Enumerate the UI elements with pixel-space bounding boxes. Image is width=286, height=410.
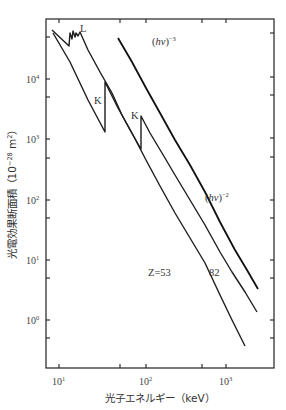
y-tick-label: 103 — [26, 133, 39, 145]
ref-label-upper: (hν)−3 — [152, 35, 176, 48]
x-tick-labels: 101 102 103 — [52, 375, 232, 387]
photoelectric-cross-section-chart: 104 103 102 101 100 101 102 103 光子エネルギー（… — [0, 0, 286, 410]
plot-frame — [46, 19, 274, 368]
y-axis-title: 光電効果断面積（10−28 m2） — [6, 125, 18, 260]
y-tick-label: 100 — [26, 314, 39, 326]
x-tick-label: 101 — [52, 375, 65, 387]
y-tick-label: 101 — [26, 254, 39, 266]
reference-power-law-line — [118, 38, 258, 289]
y-tick-labels: 104 103 102 101 100 — [26, 73, 40, 326]
edge-label-k-z82: K — [131, 110, 139, 121]
x-axis-ticks — [59, 19, 226, 368]
y-tick-label: 102 — [26, 194, 39, 206]
y-tick-label: 104 — [26, 73, 40, 85]
edge-label-l: L — [80, 23, 86, 34]
series-z53-curve — [53, 33, 245, 346]
series-label-z82: 82 — [209, 267, 220, 278]
ref-label-lower: (hν)−2 — [205, 191, 229, 204]
edge-label-k-z53: K — [94, 95, 102, 106]
x-tick-label: 103 — [219, 375, 232, 387]
series-label-z53: Z=53 — [148, 267, 171, 278]
x-axis-title: 光子エネルギー（keV） — [105, 392, 214, 404]
x-tick-label: 102 — [139, 375, 152, 387]
